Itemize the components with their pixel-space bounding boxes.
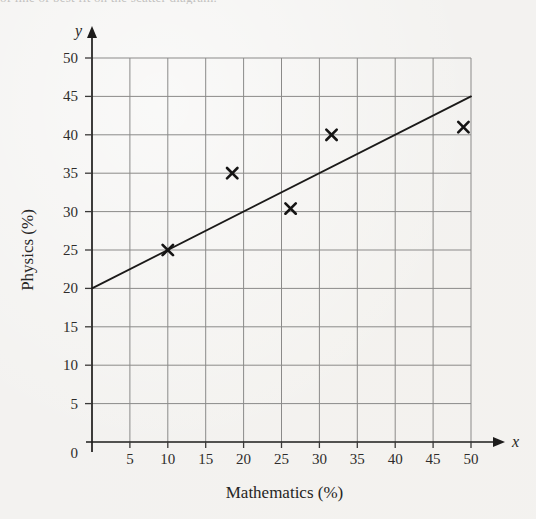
x-axis-tick-labels: 5101520253035404550 bbox=[126, 451, 478, 467]
y-tick-label-35: 35 bbox=[63, 165, 78, 181]
y-tick-label-15: 15 bbox=[63, 319, 78, 335]
x-tick-label-20: 20 bbox=[236, 451, 251, 467]
x-tick-label-10: 10 bbox=[160, 451, 175, 467]
origin-label: 0 bbox=[71, 445, 79, 461]
y-tick-label-20: 20 bbox=[63, 280, 78, 296]
chart-canvas: 5101520253035404550 5101520253035404550 … bbox=[0, 0, 536, 519]
y-tick-label-5: 5 bbox=[71, 396, 79, 412]
x-tick-label-35: 35 bbox=[350, 451, 365, 467]
y-tick-label-10: 10 bbox=[63, 357, 78, 373]
data-point-markers bbox=[163, 122, 469, 255]
x-tick-label-40: 40 bbox=[388, 451, 403, 467]
y-tick-label-40: 40 bbox=[63, 127, 78, 143]
y-axis-tick-labels: 5101520253035404550 bbox=[63, 50, 78, 412]
data-point-5 bbox=[458, 122, 468, 132]
x-axis-title: Mathematics (%) bbox=[226, 483, 344, 502]
scatter-chart: 5101520253035404550 5101520253035404550 … bbox=[0, 0, 536, 519]
y-axis-tick-marks bbox=[85, 58, 92, 404]
x-tick-label-15: 15 bbox=[198, 451, 213, 467]
x-tick-label-25: 25 bbox=[274, 451, 289, 467]
x-tick-label-30: 30 bbox=[312, 451, 327, 467]
x-tick-label-45: 45 bbox=[426, 451, 441, 467]
y-tick-label-45: 45 bbox=[63, 88, 78, 104]
x-axis-arrow-icon bbox=[493, 437, 505, 447]
x-tick-label-50: 50 bbox=[464, 451, 479, 467]
x-axis-tick-marks bbox=[130, 442, 471, 448]
axes bbox=[86, 26, 505, 452]
y-tick-label-25: 25 bbox=[63, 242, 78, 258]
y-axis-title: Physics (%) bbox=[18, 209, 37, 291]
x-axis-variable-label: x bbox=[511, 433, 519, 450]
data-point-3 bbox=[285, 203, 295, 213]
y-tick-label-50: 50 bbox=[63, 50, 78, 66]
page-background: of line of best fit on the scatter diagr… bbox=[0, 0, 536, 519]
y-tick-label-30: 30 bbox=[63, 204, 78, 220]
y-axis-arrow-icon bbox=[87, 26, 97, 38]
x-tick-label-5: 5 bbox=[126, 451, 134, 467]
y-axis-variable-label: y bbox=[73, 22, 83, 40]
